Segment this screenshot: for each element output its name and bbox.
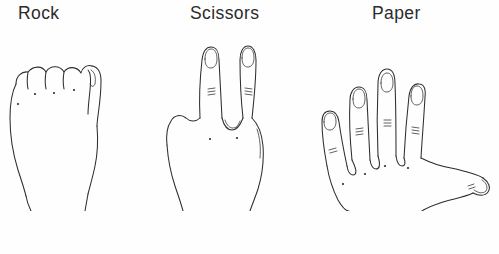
hand-scissors-icon xyxy=(150,26,290,211)
caption-strip xyxy=(0,243,499,254)
hand-paper-icon xyxy=(305,26,499,211)
hand-rock-icon xyxy=(2,26,132,211)
figure-label-rock: Rock xyxy=(18,3,59,23)
illustration-page: Rock Scissors Paper xyxy=(0,0,499,254)
figure-label-paper: Paper xyxy=(372,3,421,23)
figure-label-scissors: Scissors xyxy=(190,3,259,23)
